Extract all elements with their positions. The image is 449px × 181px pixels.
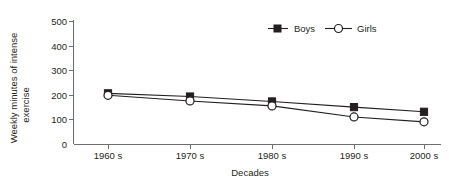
legend-girls-circle-icon [335, 25, 343, 33]
data-point-boys-1990s [350, 104, 357, 111]
y-axis-title-line1: Weekly minutes of intense [8, 33, 19, 144]
x-axis: 1960 s 1970 s 1980 s 1990 s 2000 s Decad… [74, 145, 442, 179]
data-point-girls-1970s [186, 97, 194, 105]
x-tick-label-1960s: 1960 s [94, 150, 123, 161]
x-tick-label-1970s: 1970 s [176, 150, 205, 161]
legend-boys-square-icon [274, 25, 281, 32]
y-tick-label-200: 200 [51, 90, 67, 101]
data-point-boys-2000s [420, 108, 427, 115]
y-tick-label-100: 100 [51, 114, 67, 125]
x-tick-label-2000s: 2000 s [410, 150, 439, 161]
x-axis-title: Decades [231, 167, 269, 178]
y-axis: 500 400 300 200 100 0 [51, 16, 73, 150]
legend-label-girls: Girls [357, 23, 377, 34]
y-axis-title-line2: exercise [20, 87, 31, 122]
chart-canvas: Weekly minutes of intense exercise 500 4… [0, 0, 449, 181]
series-boys [104, 90, 427, 116]
series-line-boys [108, 93, 424, 111]
data-point-girls-2000s [420, 118, 428, 126]
y-tick-label-300: 300 [51, 65, 67, 76]
line-chart-figure: Weekly minutes of intense exercise 500 4… [0, 0, 449, 181]
y-tick-label-500: 500 [51, 16, 67, 27]
data-point-girls-1980s [268, 102, 276, 110]
data-series-layer [104, 90, 428, 126]
y-axis-title: Weekly minutes of intense exercise [8, 33, 31, 144]
x-tick-label-1980s: 1980 s [258, 150, 287, 161]
x-tick-label-1990s: 1990 s [340, 150, 369, 161]
chart-legend: Boys Girls [268, 23, 377, 34]
y-tick-label-0: 0 [62, 139, 67, 150]
data-point-girls-1960s [104, 91, 112, 99]
y-tick-label-400: 400 [51, 41, 67, 52]
legend-label-boys: Boys [294, 23, 315, 34]
data-point-girls-1990s [350, 113, 358, 121]
